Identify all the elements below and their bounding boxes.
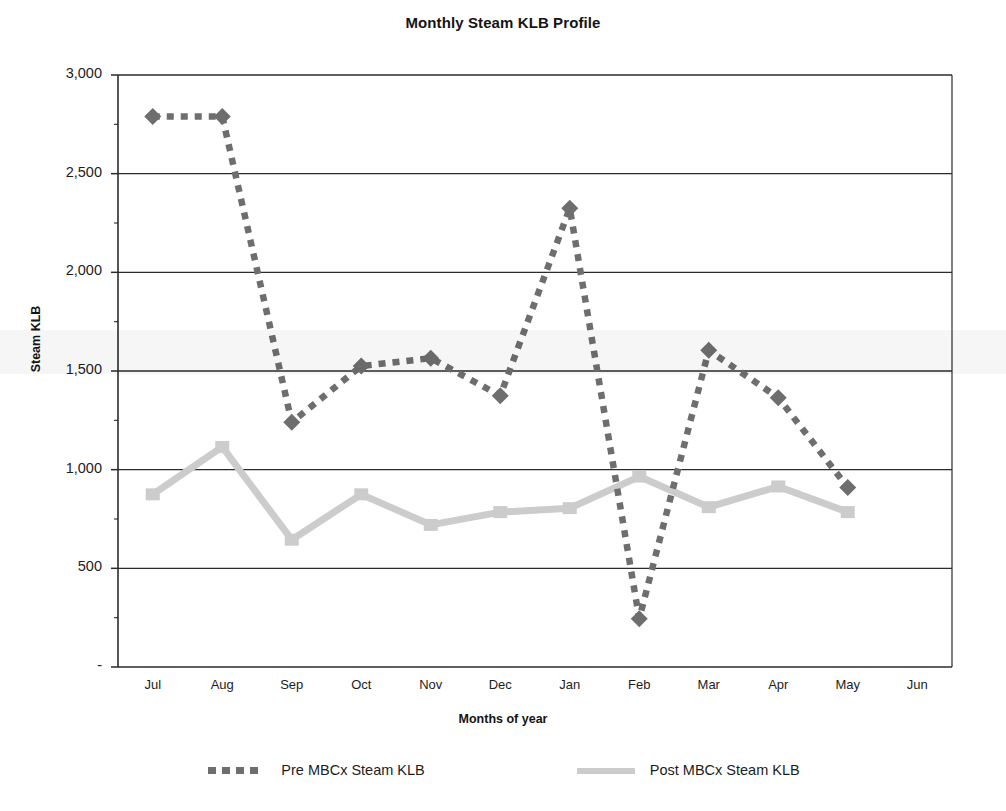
pre-mbcx-data-point xyxy=(492,387,509,404)
dotted-gray-swatch xyxy=(206,763,272,777)
pre-mbcx-data-point xyxy=(283,414,300,431)
post-mbcx-data-point xyxy=(354,488,368,500)
post-mbcx-data-point xyxy=(215,441,229,453)
scan-artifact-band xyxy=(0,330,1006,374)
post-mbcx-data-point xyxy=(424,519,438,531)
post-mbcx-line xyxy=(153,447,848,540)
post-mbcx-data-point xyxy=(632,471,646,483)
post-mbcx-data-point xyxy=(563,502,577,514)
pre-mbcx-data-point xyxy=(214,108,231,125)
gridlines xyxy=(118,75,952,568)
post-mbcx-data-point xyxy=(285,534,299,546)
pre-mbcx-data-point xyxy=(839,479,856,496)
legend-label-post-mbcx: Post MBCx Steam KLB xyxy=(650,762,800,778)
legend-item-post-mbcx[interactable]: Post MBCx Steam KLB xyxy=(575,762,800,778)
plot-area xyxy=(0,0,1006,811)
post-mbcx-data-point xyxy=(146,488,160,500)
post-mbcx-data-point xyxy=(771,480,785,492)
post-mbcx-data-point xyxy=(702,501,716,513)
solid-lightgray-swatch xyxy=(575,763,641,777)
pre-mbcx-data-point xyxy=(631,610,648,627)
series-post-mbcx xyxy=(146,441,855,546)
chart-container: Monthly Steam KLB Profile Steam KLB Mont… xyxy=(0,0,1006,811)
chart-legend: Pre MBCx Steam KLB Post MBCx Steam KLB xyxy=(0,762,1006,778)
legend-label-pre-mbcx: Pre MBCx Steam KLB xyxy=(281,762,424,778)
legend-item-pre-mbcx[interactable]: Pre MBCx Steam KLB xyxy=(206,762,424,778)
pre-mbcx-data-point xyxy=(144,108,161,125)
post-mbcx-data-point xyxy=(841,506,855,518)
pre-mbcx-data-point xyxy=(561,200,578,217)
pre-mbcx-data-point xyxy=(770,389,787,406)
post-mbcx-data-point xyxy=(493,506,507,518)
